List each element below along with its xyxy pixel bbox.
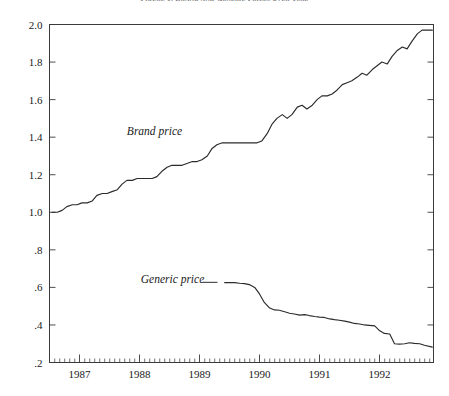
y-tick-label: 1.8 [29,56,43,68]
x-tick-label: 1992 [369,368,391,380]
line-chart: 2.01.81.61.41.21.0.8.6.4.2 1987198819891… [0,0,449,396]
y-tick-label: .6 [34,281,43,293]
annotations-group: Brand priceGeneric price [127,125,218,285]
y-tick-label: .8 [34,244,43,256]
chart-page: Figure 1. Brand and Generic Prices over … [0,0,449,396]
data-series-group [52,30,432,347]
series-annotation: Generic price [141,273,205,286]
y-tick-label: 1.0 [29,206,43,218]
series-line-generic-price [225,283,433,347]
x-tick-label: 1988 [129,368,152,380]
axis-ticks-y-labels: 2.01.81.61.41.21.0.8.6.4.2 [29,19,43,369]
x-tick-label: 1991 [309,368,331,380]
series-line-brand-price [52,30,432,212]
x-tick-label: 1989 [189,368,212,380]
x-tick-label: 1987 [69,368,92,380]
y-tick-label: 1.4 [29,131,43,143]
y-tick-label: 2.0 [29,19,43,31]
y-tick-label: 1.2 [29,169,43,181]
series-annotation: Brand price [127,125,182,138]
y-tick-label: 1.6 [29,94,43,106]
axis-ticks-x-labels: 198719881989199019911992 [69,368,391,380]
y-tick-label: .2 [34,357,42,369]
x-tick-label: 1990 [249,368,272,380]
y-tick-label: .4 [34,319,43,331]
